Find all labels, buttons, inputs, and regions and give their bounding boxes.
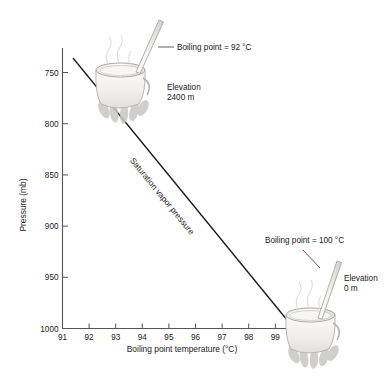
x-axis-title: Boiling point temperature (°C): [127, 344, 238, 354]
figure-container: 750 800 850 900 950 1000 Pressure (mb) 9…: [0, 0, 389, 380]
x-tick-label-91: 91: [58, 333, 68, 342]
x-tick-label-94: 94: [138, 333, 148, 342]
annotation-elevation-0-line1: Elevation: [344, 274, 378, 283]
x-tick-label-96: 96: [191, 333, 201, 342]
x-tick-label-95: 95: [164, 333, 174, 342]
x-tick-label-92: 92: [85, 333, 95, 342]
y-tick-label-800: 800: [45, 120, 59, 129]
y-tick-label-900: 900: [45, 222, 59, 231]
annotation-elevation-2400-line2: 2400 m: [167, 93, 194, 102]
x-tick-label-99: 99: [271, 333, 281, 342]
annotation-boiling-point-100: Boiling point = 100 °C: [265, 236, 344, 245]
y-tick-label-950: 950: [45, 273, 59, 282]
y-axis-title: Pressure (mb): [18, 178, 28, 231]
pot-water-surface: [100, 66, 141, 76]
y-tick-label-750: 750: [45, 69, 59, 78]
y-tick-label-850: 850: [45, 171, 59, 180]
x-tick-label-98: 98: [244, 333, 254, 342]
annotation-boiling-point-92: Boiling point = 92 °C: [177, 43, 252, 52]
x-tick-label-97: 97: [218, 333, 228, 342]
x-tick-label-93: 93: [111, 333, 121, 342]
annotation-elevation-2400-line1: Elevation: [167, 83, 201, 92]
y-tick-label-1000: 1000: [40, 325, 59, 334]
annotation-elevation-0-line2: 0 m: [344, 284, 358, 293]
saturation-vapor-pressure-chart: 750 800 850 900 950 1000 Pressure (mb) 9…: [0, 0, 389, 380]
